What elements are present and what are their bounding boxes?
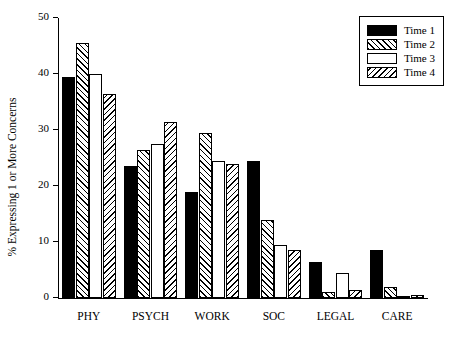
y-tick: 40: [53, 73, 58, 74]
y-axis-line: [58, 18, 59, 298]
x-group-label: LEGAL: [317, 310, 355, 322]
legend-label: Time 3: [404, 53, 435, 64]
y-tick: 50: [53, 17, 58, 18]
bar: [137, 150, 150, 298]
bar: [199, 133, 212, 298]
x-axis-line: [58, 298, 428, 299]
bar: [397, 296, 410, 298]
bar: [309, 262, 322, 298]
bar: [288, 250, 301, 298]
bar: [336, 273, 349, 298]
bar: [384, 287, 397, 298]
legend-label: Time 4: [404, 67, 435, 78]
x-group-label: PHY: [77, 310, 100, 322]
bar: [411, 295, 424, 298]
legend-item: Time 3: [367, 51, 435, 65]
x-group-label: SOC: [263, 310, 285, 322]
legend-label: Time 2: [404, 39, 435, 50]
y-tick-label: 50: [38, 9, 49, 24]
x-group-label: CARE: [382, 310, 413, 322]
legend-swatch: [367, 67, 397, 78]
bar: [62, 77, 75, 298]
bar-chart: % Expressing 1 or More Concerns 01020304…: [0, 0, 456, 354]
legend: Time 1Time 2Time 3Time 4: [359, 16, 444, 86]
bar: [124, 166, 137, 298]
y-tick-label: 10: [38, 233, 49, 248]
y-tick-label: 20: [38, 177, 49, 192]
y-tick-label: 40: [38, 65, 49, 80]
legend-item: Time 1: [367, 23, 435, 37]
y-tick: 30: [53, 129, 58, 130]
bar: [103, 94, 116, 298]
legend-swatch: [367, 53, 397, 64]
legend-label: Time 1: [404, 25, 435, 36]
x-group-label: PSYCH: [132, 310, 169, 322]
bar: [370, 250, 383, 298]
bar: [261, 220, 274, 298]
bar: [164, 122, 177, 298]
bar: [322, 292, 335, 298]
legend-swatch: [367, 39, 397, 50]
y-tick: 0: [53, 297, 58, 298]
y-axis-title: % Expressing 1 or More Concerns: [6, 47, 18, 307]
x-group-label: WORK: [195, 310, 230, 322]
bar: [274, 245, 287, 298]
y-tick-label: 30: [38, 121, 49, 136]
bar: [247, 161, 260, 298]
bar: [349, 290, 362, 298]
bar: [185, 192, 198, 298]
legend-item: Time 2: [367, 37, 435, 51]
bar: [151, 144, 164, 298]
legend-item: Time 4: [367, 65, 435, 79]
y-tick: 20: [53, 185, 58, 186]
bar: [226, 164, 239, 298]
legend-swatch: [367, 25, 397, 36]
bar: [76, 43, 89, 298]
bar: [212, 161, 225, 298]
y-tick: 10: [53, 241, 58, 242]
bar: [89, 74, 102, 298]
y-tick-label: 0: [44, 289, 50, 304]
